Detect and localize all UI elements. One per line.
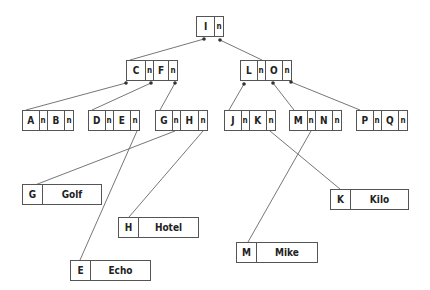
key-cell: E [114,111,132,130]
pointer-cell: n [40,111,48,130]
record-key: K [331,190,351,209]
key-cell: M [290,111,308,130]
key-cell: Q [382,111,400,130]
pointer-cell: n [146,61,154,80]
key-cell: P [357,111,374,130]
key-cell: J [225,111,242,130]
node-gh: G n H n [155,110,208,131]
pointer-cell: n [399,111,407,130]
pointer-cell: n [199,111,207,130]
root-node: I n [196,16,224,37]
node-ab: A n B n [22,110,74,131]
key-cell: B [48,111,66,130]
pointer-cell: n [333,111,341,130]
record-value: Mike [257,243,317,262]
pointer-cell: n [258,61,266,80]
record-key: M [237,243,257,262]
key-cell: C [127,61,146,80]
key-cell: K [250,111,268,130]
pointer-cell: n [283,61,291,80]
pointer-cell: n [374,111,382,130]
key-cell: G [156,111,173,130]
record-key: H [119,218,139,237]
key-cell: L [241,61,258,80]
pointer-cell: n [308,111,316,130]
pointer-cell: n [242,111,250,130]
pointer-cell: n [267,111,275,130]
record-value: Kilo [351,190,408,209]
record-kilo: K Kilo [330,189,409,210]
record-value: Golf [43,185,101,204]
key-cell: H [181,111,200,130]
record-golf: G Golf [22,184,102,205]
tree-edges [0,0,430,290]
node-pq: P n Q n [356,110,408,131]
key-cell: O [266,61,284,80]
node-lo: L n O n [240,60,292,81]
key-cell: N [316,111,334,130]
pointer-cell: n [215,17,223,36]
key-cell: I [197,17,215,36]
pointer-cell: n [65,111,73,130]
node-mn: M n N n [289,110,342,131]
record-mike: M Mike [236,242,318,263]
record-value: Echo [91,261,150,280]
record-value: Hotel [139,218,198,237]
record-hotel: H Hotel [118,217,199,238]
node-jk: J n K n [224,110,276,131]
record-key: E [71,261,91,280]
pointer-cell: n [169,61,177,80]
node-cf: C n F n [126,60,178,81]
key-cell: F [154,61,169,80]
key-cell: A [23,111,40,130]
record-key: G [23,185,43,204]
node-de: D n E n [88,110,140,131]
record-echo: E Echo [70,260,151,281]
pointer-cell: n [106,111,114,130]
pointer-cell: n [173,111,181,130]
key-cell: D [89,111,106,130]
pointer-cell: n [131,111,139,130]
